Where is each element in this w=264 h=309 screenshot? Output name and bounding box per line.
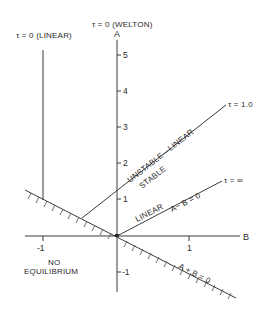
- b-axis-label: B: [243, 232, 249, 242]
- a-tick-4: 4: [123, 86, 128, 96]
- a-tick-1: 1: [123, 194, 128, 204]
- no-label: NO: [48, 258, 60, 267]
- tau-zero-welton-label: τ = 0 (WELTON): [92, 20, 153, 29]
- stability-diagram: 5 4 3 2 1 -1 -1 1 A B τ = 0 (LINEAR) τ =…: [0, 0, 264, 309]
- b-tick-neg1: -1: [37, 243, 45, 253]
- a-tick-5: 5: [123, 50, 128, 60]
- a-tick-2: 2: [123, 158, 128, 168]
- tau-one-label: τ = 1.0: [228, 100, 253, 109]
- a-axis-label: A: [114, 29, 120, 39]
- a-tick-3: 3: [123, 122, 128, 132]
- a-plus-b-zero-label: A + B = 0: [177, 262, 212, 286]
- b-tick-1: 1: [187, 243, 192, 253]
- a-axis-ticks: [117, 55, 121, 272]
- equilibrium-label: EQUILIBRIUM: [24, 267, 78, 276]
- no-equilibrium-hatching: [28, 193, 231, 299]
- a-tick-neg1: -1: [122, 267, 130, 277]
- tau-infinity-label: τ = ∞: [224, 176, 243, 185]
- a-minus-b-zero-label: A− B = 0: [169, 191, 203, 214]
- tau-zero-linear-label: τ = 0 (LINEAR): [16, 31, 72, 40]
